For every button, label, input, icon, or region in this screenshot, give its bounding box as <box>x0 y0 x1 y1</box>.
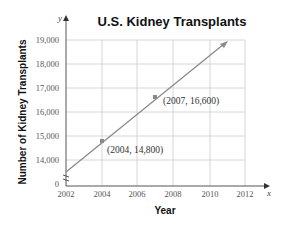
svg-text:17,000: 17,000 <box>36 83 59 93</box>
x-axis-variable: x <box>266 188 271 198</box>
svg-text:2008: 2008 <box>165 189 182 199</box>
svg-text:18,000: 18,000 <box>36 59 59 69</box>
svg-text:2004: 2004 <box>94 189 112 199</box>
y-axis-variable: y <box>57 13 62 23</box>
point-label-2007: (2007, 16,600) <box>163 96 219 107</box>
grid <box>66 40 245 186</box>
svg-text:0: 0 <box>55 179 59 189</box>
data-point-2007 <box>153 95 157 99</box>
x-axis-title: Year <box>154 205 175 216</box>
svg-text:16,000: 16,000 <box>36 107 59 117</box>
x-tick-labels: 2002 2004 2006 2008 2010 2012 <box>58 189 254 199</box>
svg-text:2010: 2010 <box>202 189 219 199</box>
y-axis-title: Number of Kidney Transplants <box>17 39 28 184</box>
point-label-2004: (2004, 14,800) <box>107 145 163 156</box>
chart: U.S. Kidney Transplants y x 19,000 18,00… <box>0 0 282 228</box>
data-point-2004 <box>100 139 104 143</box>
svg-text:2012: 2012 <box>237 189 254 199</box>
y-tick-labels: 19,000 18,000 17,000 16,000 15,000 14,00… <box>36 35 59 189</box>
svg-text:2006: 2006 <box>129 189 146 199</box>
y-axis-arrow-icon <box>63 15 69 21</box>
svg-text:14,000: 14,000 <box>36 155 59 165</box>
svg-text:19,000: 19,000 <box>36 35 59 45</box>
svg-text:2002: 2002 <box>58 189 75 199</box>
svg-text:15,000: 15,000 <box>36 131 59 141</box>
chart-title: U.S. Kidney Transplants <box>98 14 247 29</box>
